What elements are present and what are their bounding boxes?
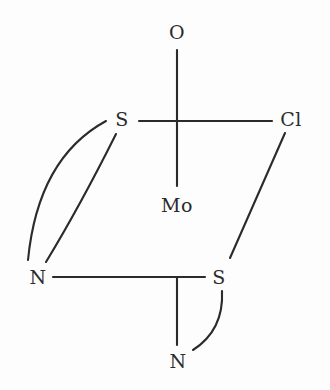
atom-label-cl-right: Cl: [277, 109, 305, 130]
atom-label-s-upper: S: [112, 109, 132, 130]
atom-label-o-top: O: [166, 22, 188, 43]
bond-s-lower-n-bottom-arc: [193, 291, 222, 350]
bond-s-upper-n-left-line: [46, 134, 116, 262]
atom-label-n-bottom: N: [166, 351, 189, 372]
bond-cl-s-lower: [230, 133, 285, 258]
atom-label-mo-center: Mo: [158, 195, 196, 216]
bond-s-upper-n-left-arc: [28, 121, 106, 260]
atom-label-s-lower: S: [209, 267, 229, 288]
atom-label-n-left: N: [26, 267, 49, 288]
structure-diagram: OSClMoNSN: [0, 0, 330, 390]
